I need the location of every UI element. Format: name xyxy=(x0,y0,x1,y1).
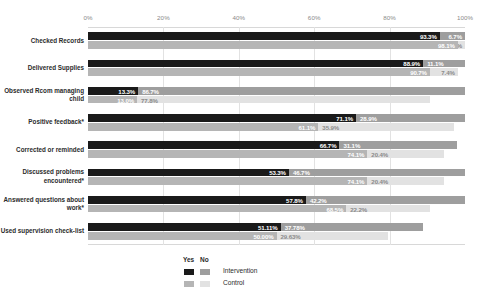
value-label-control-yes: 61.1% xyxy=(299,123,316,130)
segment-intervention-no: 28.9% xyxy=(356,114,465,122)
segment-control-yes: 13.0% xyxy=(88,96,137,104)
legend-header-no: No xyxy=(200,256,209,263)
legend-header: YesNo xyxy=(183,256,209,263)
value-label-control-no: 20.4% xyxy=(371,178,388,185)
value-label-intervention-yes: 93.3% xyxy=(420,33,437,40)
segment-control-no: 7.4% xyxy=(430,68,458,76)
segment-intervention-yes: 53.3% xyxy=(88,169,289,177)
category-label: Used supervision check-list xyxy=(0,227,84,235)
legend-header-yes: Yes xyxy=(183,256,200,263)
segment-intervention-no: 86.7% xyxy=(138,87,465,95)
legend-label-intervention: Intervention xyxy=(223,267,257,274)
bar-group: 13.3%86.7%13.0%77.8% xyxy=(88,82,465,109)
segment-control-yes: 74.1% xyxy=(88,177,367,185)
bar-group: 53.3%46.7%74.1%20.4% xyxy=(88,163,465,190)
x-axis-tick-4: 80% xyxy=(383,14,396,21)
bar-control: 61.1%35.9% xyxy=(88,123,465,131)
segment-control-no: 20.4% xyxy=(367,150,444,158)
bar-group: 88.9%11.1%90.7%7.4% xyxy=(88,54,465,81)
segment-control-yes: 74.1% xyxy=(88,150,367,158)
segment-intervention-yes: 66.7% xyxy=(88,141,339,149)
x-axis-tick-2: 40% xyxy=(232,14,245,21)
segment-control-yes: 98.1% xyxy=(88,41,458,49)
bar-intervention: 66.7%31.1% xyxy=(88,141,465,149)
plot-area: 93.3%6.7%98.1%1.9%88.9%11.1%90.7%7.4%13.… xyxy=(88,27,465,245)
value-label-control-yes: 13.0% xyxy=(117,96,134,103)
category-label: Delivered Supplies xyxy=(0,64,84,72)
bar-control: 98.1%1.9% xyxy=(88,41,465,49)
legend-swatch-control-yes xyxy=(184,281,194,287)
segment-intervention-yes: 88.9% xyxy=(88,60,423,68)
bar-group: 93.3%6.7%98.1%1.9% xyxy=(88,27,465,54)
segment-intervention-yes: 13.3% xyxy=(88,87,138,95)
category-label: Answered questions about work* xyxy=(0,196,84,213)
value-label-intervention-no: 11.1% xyxy=(427,60,443,67)
value-label-intervention-yes: 13.3% xyxy=(118,87,135,94)
value-label-intervention-yes: 88.9% xyxy=(403,60,420,67)
value-label-control-yes: 50.00% xyxy=(253,232,273,239)
legend-label-control: Control xyxy=(223,279,244,286)
bar-intervention: 88.9%11.1% xyxy=(88,60,465,68)
bar-control: 74.1%20.4% xyxy=(88,177,465,185)
segment-intervention-no: 6.7% xyxy=(440,32,465,40)
value-label-intervention-yes: 71.1% xyxy=(336,114,353,121)
value-label-control-no: 29.63% xyxy=(281,232,301,239)
value-label-intervention-no: 46.7% xyxy=(293,169,310,176)
value-label-intervention-no: 86.7% xyxy=(142,87,159,94)
bar-intervention: 57.8%42.2% xyxy=(88,196,465,204)
value-label-control-no: 22.2% xyxy=(350,205,367,212)
segment-intervention-yes: 51.11% xyxy=(88,223,281,231)
segment-intervention-yes: 93.3% xyxy=(88,32,440,40)
category-label: Checked Records xyxy=(0,37,84,45)
x-axis-tick-0: 0% xyxy=(83,14,92,21)
segment-intervention-no: 31.1% xyxy=(339,141,456,149)
segment-control-no: 35.9% xyxy=(318,123,453,131)
value-label-control-no: 20.4% xyxy=(371,151,388,158)
bar-intervention: 93.3%6.7% xyxy=(88,32,465,40)
value-label-control-yes: 68.5% xyxy=(326,205,343,212)
x-axis-tick-labels: 0%20%40%60%80%100% xyxy=(88,14,465,26)
x-axis-tick-5: 100% xyxy=(457,14,473,21)
segment-intervention-no: 42.2% xyxy=(306,196,465,204)
legend-swatch-intervention-yes xyxy=(184,269,194,275)
segment-control-yes: 61.1% xyxy=(88,123,318,131)
value-label-intervention-no: 42.2% xyxy=(310,196,327,203)
category-label: Corrected or reminded xyxy=(0,146,84,154)
segment-intervention-yes: 71.1% xyxy=(88,114,356,122)
value-label-intervention-yes: 53.3% xyxy=(269,169,286,176)
value-label-intervention-no: 6.7% xyxy=(448,33,462,40)
value-label-control-no: 77.8% xyxy=(141,96,158,103)
x-axis-tick-1: 20% xyxy=(157,14,170,21)
category-label: Observed Rcom managing child xyxy=(0,87,84,104)
segment-control-no: 77.8% xyxy=(137,96,430,104)
segment-control-yes: 50.00% xyxy=(88,232,277,240)
bar-group: 71.1%28.9%61.1%35.9% xyxy=(88,109,465,136)
category-label: Positive feedback* xyxy=(0,118,84,126)
value-label-intervention-no: 37.78% xyxy=(285,223,305,230)
segment-control-yes: 68.5% xyxy=(88,205,346,213)
segment-intervention-no: 37.78% xyxy=(281,223,423,231)
value-label-control-yes: 98.1% xyxy=(438,42,455,49)
value-label-control-no: 7.4% xyxy=(441,69,455,76)
value-label-intervention-yes: 66.7% xyxy=(320,142,337,149)
value-label-control-no: 1.9% xyxy=(458,42,462,49)
bar-control: 90.7%7.4% xyxy=(88,68,465,76)
value-label-control-no: 35.9% xyxy=(322,123,339,130)
bar-group: 66.7%31.1%74.1%20.4% xyxy=(88,136,465,163)
bar-group: 57.8%42.2%68.5%22.2% xyxy=(88,191,465,218)
value-label-intervention-no: 28.9% xyxy=(360,114,377,121)
value-label-intervention-yes: 51.11% xyxy=(258,223,278,230)
value-label-intervention-yes: 57.8% xyxy=(286,196,303,203)
bar-control: 74.1%20.4% xyxy=(88,150,465,158)
segment-intervention-no: 11.1% xyxy=(423,60,465,68)
bar-control: 13.0%77.8% xyxy=(88,96,465,104)
bar-intervention: 51.11%37.78% xyxy=(88,223,465,231)
bar-intervention: 13.3%86.7% xyxy=(88,87,465,95)
bar-group: 51.11%37.78%50.00%29.63% xyxy=(88,218,465,245)
value-label-control-yes: 74.1% xyxy=(348,151,365,158)
segment-control-no: 1.9% xyxy=(458,41,465,49)
stacked-bar-chart: 0%20%40%60%80%100% 93.3%6.7%98.1%1.9%88.… xyxy=(0,0,481,302)
segment-control-no: 22.2% xyxy=(346,205,430,213)
x-axis-tick-3: 60% xyxy=(308,14,321,21)
legend-swatch-intervention-no xyxy=(200,269,210,275)
